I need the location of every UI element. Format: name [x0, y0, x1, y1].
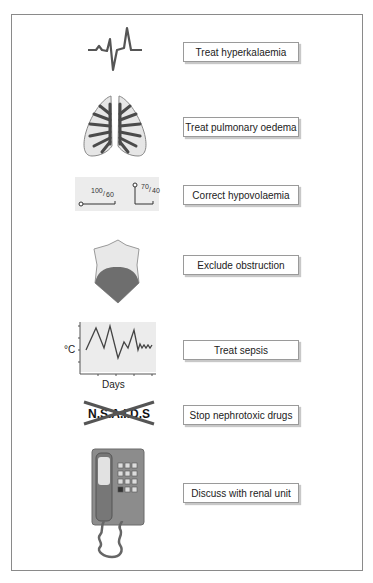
- ecg-trace-icon: [86, 26, 148, 78]
- label-exclude-obstruction: Exclude obstruction: [183, 255, 299, 275]
- svg-text:Days: Days: [102, 379, 125, 390]
- svg-text:60: 60: [106, 191, 114, 198]
- svg-text:40: 40: [152, 187, 160, 194]
- svg-text:/: /: [149, 186, 151, 193]
- label-treat-pulmonary-oedema: Treat pulmonary oedema: [183, 117, 299, 137]
- svg-text:/: /: [103, 190, 105, 197]
- label-stop-nephrotoxic-drugs: Stop nephrotoxic drugs: [183, 405, 299, 425]
- temperature-chart-icon: °C Days: [64, 320, 160, 392]
- label-discuss-with-renal-unit: Discuss with renal unit: [183, 483, 299, 503]
- label-treat-hyperkalaemia: Treat hyperkalaemia: [183, 42, 299, 62]
- lungs-icon: [80, 92, 150, 160]
- svg-text:°C: °C: [64, 344, 75, 355]
- crossed-nsaids-icon: N.S.A.I.D.S: [80, 398, 158, 426]
- telephone-icon: [90, 447, 146, 563]
- svg-text:100: 100: [91, 187, 103, 194]
- label-treat-sepsis: Treat sepsis: [183, 340, 299, 360]
- svg-text:70: 70: [141, 183, 149, 190]
- blood-pressure-drop-icon: 100 / 60 70 / 40: [75, 177, 161, 213]
- bladder-obstruction-icon: [92, 239, 142, 305]
- label-correct-hypovolaemia: Correct hypovolaemia: [183, 185, 299, 205]
